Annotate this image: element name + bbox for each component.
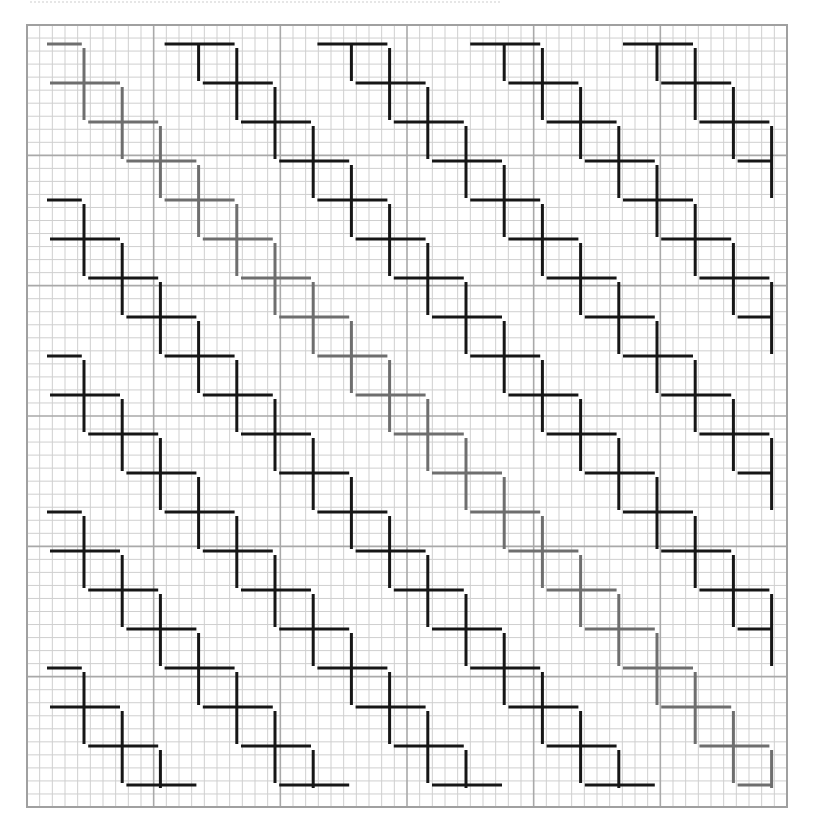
cross-stitch-diagram bbox=[0, 0, 817, 832]
stitch-diagonal bbox=[47, 668, 196, 788]
